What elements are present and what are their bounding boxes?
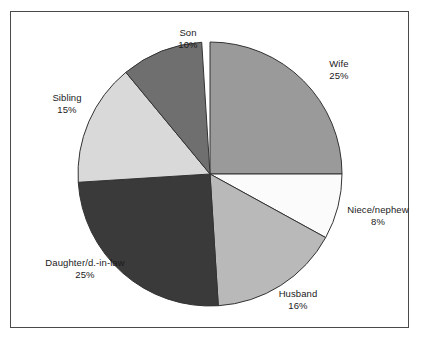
figure-canvas: Son 10% Wife 25% Niece/nephew 8% Husband… — [0, 0, 421, 341]
slice-label-wife: Wife 25% — [299, 58, 379, 82]
slice-label-husband-name: Husband — [279, 288, 318, 299]
slice-label-daughter-in-law-name: Daughter/d.-in-law — [45, 257, 124, 268]
slice-label-daughter-in-law: Daughter/d.-in-law 25% — [22, 257, 148, 281]
slice-label-son-name: Son — [179, 27, 196, 38]
slice-label-sibling-value: 15% — [27, 104, 107, 116]
slice-label-son: Son 10% — [148, 27, 228, 51]
slice-label-husband: Husband 16% — [258, 288, 338, 312]
slice-label-wife-value: 25% — [299, 70, 379, 82]
slice-label-niece-nephew: Niece/nephew 8% — [337, 204, 419, 228]
slice-label-husband-value: 16% — [258, 300, 338, 312]
slice-label-sibling: Sibling 15% — [27, 92, 107, 116]
slice-label-sibling-name: Sibling — [52, 92, 81, 103]
slice-label-niece-nephew-name: Niece/nephew — [347, 204, 408, 215]
slice-label-son-value: 10% — [148, 39, 228, 51]
slice-label-daughter-in-law-value: 25% — [22, 269, 148, 281]
slice-label-wife-name: Wife — [329, 58, 348, 69]
slice-label-niece-nephew-value: 8% — [337, 216, 419, 228]
